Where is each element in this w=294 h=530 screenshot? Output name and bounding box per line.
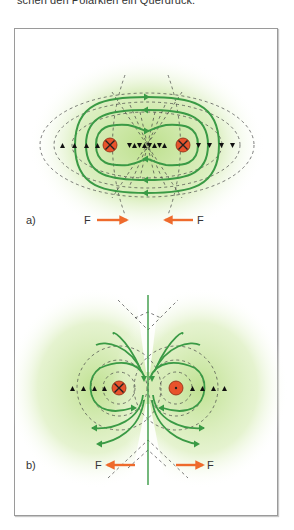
force-label-left: F: [95, 459, 102, 471]
conductor-left-into-page-icon: [103, 138, 117, 152]
panel-a-attracting-conductors: F F a): [26, 55, 265, 235]
force-label-right: F: [207, 459, 214, 471]
conductor-right-into-page-icon: [176, 138, 190, 152]
conductor-right-out-of-page-icon: [169, 381, 183, 395]
conductor-left-into-page-icon: [112, 381, 126, 395]
panel-label-a: a): [26, 214, 36, 226]
panel-label-b: b): [26, 459, 36, 471]
force-label-right: F: [197, 214, 204, 226]
field-glow: [29, 55, 265, 235]
magnetic-field-diagrams: F F a): [0, 0, 294, 530]
panel-b-repelling-conductors: F F b): [7, 288, 288, 495]
force-label-left: F: [84, 214, 91, 226]
